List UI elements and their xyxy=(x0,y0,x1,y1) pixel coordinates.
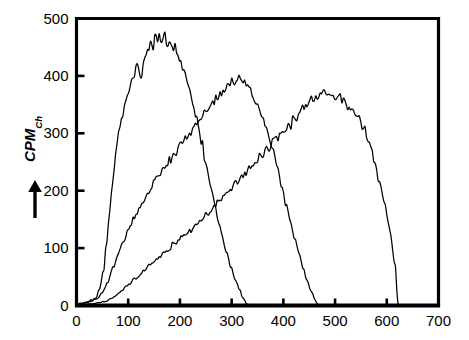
y-tick-label: 0 xyxy=(29,298,69,313)
x-tick-label: 100 xyxy=(106,313,150,328)
x-tick-label: 700 xyxy=(417,313,461,328)
data-curves xyxy=(77,32,408,306)
x-tick-label: 200 xyxy=(158,313,202,328)
y-tick-label: 400 xyxy=(29,68,69,83)
chart-figure: CPMCh 0100200300400500 01002003004005006… xyxy=(0,0,469,340)
y-tick-label: 100 xyxy=(29,240,69,255)
x-tick-label: 400 xyxy=(261,313,305,328)
y-tick-label: 200 xyxy=(29,183,69,198)
x-tick-label: 500 xyxy=(313,313,357,328)
curve-peak-1 xyxy=(77,32,252,305)
x-tick-label: 300 xyxy=(210,313,254,328)
x-tick-label: 600 xyxy=(365,313,409,328)
curve-peak-2 xyxy=(77,75,325,305)
y-tick-label: 500 xyxy=(29,11,69,26)
curve-peak-3 xyxy=(77,90,408,307)
y-tick-label: 300 xyxy=(29,125,69,140)
plot-area xyxy=(0,0,469,340)
x-tick-label: 0 xyxy=(55,313,99,328)
